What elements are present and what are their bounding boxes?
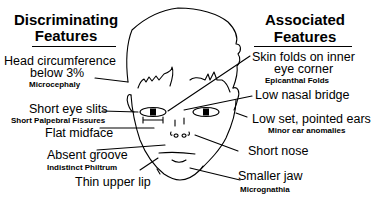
leader-ears [236, 113, 247, 117]
left-heading-line2: Features [4, 28, 128, 44]
mouth [159, 152, 195, 162]
label-low-set-ears: Low set, pointed ears [252, 113, 371, 126]
hair-fringe [138, 67, 230, 92]
label-short-nose: Short nose [248, 145, 308, 158]
palpebral-marker [143, 117, 163, 123]
nose-bridge [175, 118, 184, 126]
sublabel-epicanthal-folds: Epicanthal Folds [265, 76, 329, 85]
right-heading-rule [254, 46, 352, 47]
leader-nose [195, 135, 238, 151]
right-heading-line1: Associated [250, 12, 360, 28]
sublabel-micrognathia: Micrognathia [240, 185, 290, 194]
leader-head [95, 78, 128, 82]
left-heading-line1: Discriminating [4, 12, 128, 28]
sublabel-microcephaly: Microcephaly [29, 80, 80, 89]
hair-outline [127, 8, 241, 88]
left-pupil [150, 109, 156, 116]
label-skin-folds-2: eye corner [274, 63, 333, 76]
label-head-circumference-2: below 3% [30, 67, 84, 80]
label-thin-upper-lip: Thin upper lip [75, 176, 151, 189]
label-smaller-jaw: Smaller jaw [238, 170, 303, 183]
right-pupil [203, 109, 209, 116]
sublabel-minor-ear-anomalies: Minor ear anomalies [268, 126, 345, 135]
label-low-nasal-bridge: Low nasal bridge [255, 89, 350, 102]
left-heading-rule [32, 46, 116, 47]
sublabel-palpebral-fissures: Short Palpebral Fissures [11, 116, 105, 125]
right-heading-line2: Features [250, 29, 360, 45]
leader-bridge [184, 96, 252, 110]
label-flat-midface: Flat midface [45, 127, 113, 140]
leader-jaw [190, 168, 240, 180]
leader-lip [140, 158, 158, 170]
sublabel-indistinct-philtrum: Indistinct Philtrum [47, 163, 117, 172]
label-absent-groove: Absent groove [47, 149, 128, 162]
leader-epicanthal [168, 56, 250, 111]
label-short-eye-slits: Short eye slits [29, 103, 108, 116]
nostrils [171, 132, 190, 137]
